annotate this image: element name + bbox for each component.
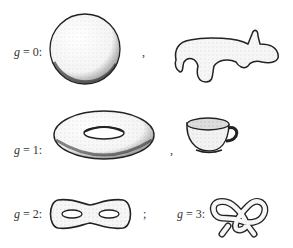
genus-eq: = 3: <box>183 207 205 221</box>
genus-1-label: g = 1: <box>14 143 42 158</box>
separator: ; <box>143 207 146 222</box>
genus-3-label: g = 3: <box>177 207 205 222</box>
separator: , <box>142 45 145 60</box>
genus-eq: = 2: <box>20 207 42 221</box>
teacup-shape <box>184 113 244 158</box>
separator: , <box>170 143 173 158</box>
pretzel-shape <box>208 190 270 238</box>
genus-eq: = 0: <box>20 45 42 59</box>
genus-eq: = 1: <box>20 143 42 157</box>
genus-2-label: g = 2: <box>14 207 42 222</box>
blob-animal-shape <box>168 22 283 82</box>
torus-shape <box>52 108 157 163</box>
genus-0-label: g = 0: <box>14 45 42 60</box>
double-torus-shape <box>48 196 133 232</box>
sphere-shape <box>48 12 123 87</box>
